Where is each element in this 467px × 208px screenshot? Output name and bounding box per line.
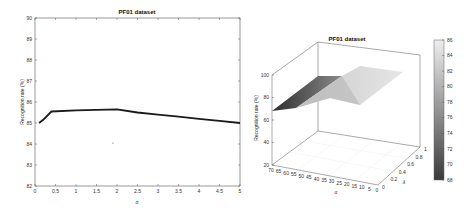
x-tick-label: 3 [157,188,160,194]
alpha-tick-label: 15 [352,183,358,189]
y-tick-label: 88 [26,57,32,63]
alpha-tick-label: 50 [299,173,305,179]
x-axis-label: σ [135,199,139,205]
surface [272,66,403,111]
surface-chart: PF01 dataset 2040608010 [253,36,453,195]
lambda-tick-label: 1 [424,146,427,152]
y-tick-label: 87 [26,78,32,84]
x-tick-label: 0 [34,188,37,194]
x-tick-label: 4 [198,188,201,194]
lambda-tick-label: 0 [382,184,385,190]
lambda-tick-label: 0.8 [416,154,423,160]
stray-point [112,142,113,143]
lambda-tick-label: 0.2 [390,176,397,182]
z-axis-label: Recognition rate (%) [253,95,259,141]
x-tick-label: 5 [239,188,242,194]
z-tick-label: 60 [263,117,269,123]
plot-frame [35,18,240,186]
x-tick-label: 1 [75,188,78,194]
alpha-tick-label: 60 [283,170,289,176]
x-axis: 00.511.522.533.544.55 [34,18,242,194]
lambda-axis-label: λ [402,179,406,185]
z-tick-label: 40 [263,139,269,145]
colorbar-tick-label: 80 [447,83,453,89]
alpha-axis-label: α [335,189,338,195]
lambda-tick-label: 0.4 [399,169,406,175]
colorbar-tick-label: 72 [447,146,453,152]
chart-title: PF01 dataset [118,9,155,15]
x-tick-label: 4.5 [216,188,223,194]
y-tick-label: 85 [26,120,32,126]
colorbar-tick-label: 78 [447,99,453,105]
alpha-tick-label: 5 [368,186,371,192]
alpha-tick-label: 55 [291,171,297,177]
alpha-tick-label: 65 [276,168,282,174]
lambda-tick-label: 0.6 [407,161,414,167]
colorbar-tick-label: 84 [447,52,453,58]
z-tick-label: 80 [263,94,269,100]
colorbar-tick-label: 68 [447,177,453,183]
y-axis: 828384858687888990 [26,15,240,189]
x-tick-label: 3.5 [175,188,182,194]
colorbar-tick-label: 74 [447,130,453,136]
alpha-tick-label: 0 [376,187,379,193]
x-tick-label: 2 [116,188,119,194]
alpha-tick-label: 20 [344,181,350,187]
colorbar-tick-label: 70 [447,161,453,167]
alpha-tick-label: 40 [314,176,320,182]
alpha-tick-label: 70 [268,167,274,173]
colorbar [434,40,444,180]
y-tick-label: 89 [26,36,32,42]
alpha-tick-label: 30 [329,178,335,184]
x-tick-label: 2.5 [134,188,141,194]
colorbar-tick-label: 76 [447,114,453,120]
y-axis-label: Recognition rate (%) [19,79,25,125]
data-series-line [39,109,240,123]
y-tick-label: 82 [26,183,32,189]
alpha-tick-label: 10 [359,184,365,190]
y-tick-label: 90 [26,15,32,21]
x-tick-label: 0.5 [52,188,59,194]
colorbar-tick-label: 86 [447,37,453,43]
axes-box [272,42,420,185]
figure: PF01 dataset 828384858687888990 00.511.5… [0,0,467,208]
alpha-tick-label: 45 [306,174,312,180]
alpha-tick-label: 25 [336,180,342,186]
z-tick-label: 100 [261,72,270,78]
alpha-axis: 7065605550454035302520151050 [268,167,378,193]
x-tick-label: 1.5 [93,188,100,194]
line-chart: PF01 dataset 828384858687888990 00.511.5… [19,9,242,205]
floor-grid [290,134,410,180]
y-tick-label: 86 [26,99,32,105]
chart-title: PF01 dataset [328,36,365,42]
y-tick-label: 84 [26,141,32,147]
colorbar-tick-label: 82 [447,68,453,74]
y-tick-label: 83 [26,162,32,168]
alpha-tick-label: 35 [321,177,327,183]
